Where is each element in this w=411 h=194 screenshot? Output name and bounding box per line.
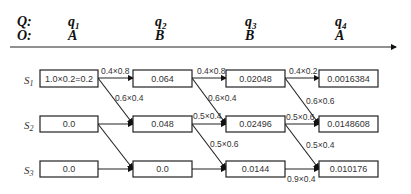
trellis-node: 0.0 xyxy=(40,116,98,132)
state-label-s3: S3 xyxy=(24,164,34,178)
svg-text:0.048: 0.048 xyxy=(151,119,174,129)
edge-label: 0.4×0.8 xyxy=(101,66,130,76)
trellis-node: 0.0148608 xyxy=(319,116,378,132)
trellis-node: 0.0 xyxy=(40,161,98,177)
svg-text:0.02496: 0.02496 xyxy=(239,119,272,129)
svg-text:B: B xyxy=(154,28,164,43)
edge-label: 0.5×0.4 xyxy=(306,140,335,150)
trellis-node: 0.0 xyxy=(133,161,192,177)
svg-text:0.0: 0.0 xyxy=(63,119,76,129)
edge-label: 0.6×0.4 xyxy=(115,93,144,103)
trellis-node: 0.02496 xyxy=(226,116,285,132)
transition-edges xyxy=(98,78,319,169)
state-label-s2: S2 xyxy=(24,119,34,133)
trellis-node: 0.0144 xyxy=(226,161,285,177)
svg-text:B: B xyxy=(244,28,254,43)
trellis-node: 0.064 xyxy=(133,70,192,87)
column-header-2: q2 B xyxy=(154,14,167,43)
trellis-node: 1.0×0.2=0.2 xyxy=(40,70,98,87)
edge-label: 0.4×0.8 xyxy=(197,66,226,76)
edge-label: 0.5×0.4 xyxy=(193,111,222,121)
trellis-node: 0.048 xyxy=(133,116,192,132)
trellis-node: 0.02048 xyxy=(226,70,285,87)
svg-text:0.0144: 0.0144 xyxy=(242,164,270,174)
q-row-label: Q: xyxy=(17,14,32,29)
svg-text:0.064: 0.064 xyxy=(151,74,174,84)
edge-label: 0.6×0.6 xyxy=(306,96,335,106)
svg-text:1.0×0.2=0.2: 1.0×0.2=0.2 xyxy=(45,74,93,84)
svg-text:0.010176: 0.010176 xyxy=(330,164,368,174)
column-header-4: q4 A xyxy=(334,14,347,43)
svg-text:0.02048: 0.02048 xyxy=(239,74,272,84)
svg-text:A: A xyxy=(67,28,77,43)
svg-text:0.0148608: 0.0148608 xyxy=(327,119,370,129)
state-label-s1: S1 xyxy=(24,74,34,88)
svg-text:0.0: 0.0 xyxy=(63,164,76,174)
edge-label: 0.5×0.6 xyxy=(286,112,315,122)
edge-label: 0.5×0.6 xyxy=(210,139,239,149)
trellis-node: 0.0016384 xyxy=(319,70,378,87)
viterbi-trellis-diagram: Q: O: q1 A q2 B q3 B q4 A S1 S2 S3 xyxy=(0,0,411,194)
edge-label: 0.4×0.2 xyxy=(289,66,318,76)
column-header-1: q1 A xyxy=(67,14,80,43)
svg-text:0.0016384: 0.0016384 xyxy=(327,74,370,84)
edge-label: 0.6×0.4 xyxy=(208,93,237,103)
trellis-node: 0.010176 xyxy=(319,161,378,177)
column-header-3: q3 B xyxy=(244,14,257,43)
svg-text:A: A xyxy=(334,28,344,43)
o-row-label: O: xyxy=(17,28,32,43)
edge-label: 0.9×0.4 xyxy=(287,174,316,184)
svg-text:0.0: 0.0 xyxy=(156,164,169,174)
